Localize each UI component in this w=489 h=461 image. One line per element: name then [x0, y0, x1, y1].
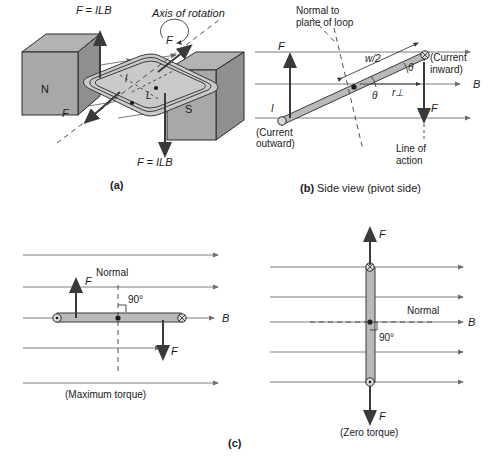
force-right-label-a: F	[166, 34, 174, 46]
panel-c-caption: (c)	[228, 437, 242, 449]
field-label-c-left: B	[222, 312, 229, 324]
panel-c-left: B F F Normal 90° (Maximum torque	[23, 255, 229, 400]
panel-c-right: B F F Normal 90° (Zero torque)	[270, 228, 475, 438]
panel-a-caption: (a)	[110, 179, 124, 191]
current-outward-line2: outward)	[256, 138, 295, 149]
panel-b: B w/2 r⊥	[255, 5, 480, 194]
force-up-label-b: F	[278, 40, 286, 52]
line-of-action-line1: Line of	[396, 143, 426, 154]
rotation-arrow-icon	[161, 19, 189, 43]
right-angle-marker-c-left	[118, 305, 126, 312]
theta-label-upper: θ	[408, 62, 414, 73]
panel-b-caption-text: Side view (pivot side)	[317, 182, 421, 194]
panel-b-caption-tag: (b)	[300, 182, 314, 194]
field-label-c-right: B	[468, 316, 475, 328]
loop-bar-c-right	[366, 263, 375, 386]
current-label-b: I	[271, 103, 274, 114]
state-label-c-left: (Maximum torque)	[65, 389, 146, 400]
normal-label-c-right: Normal	[407, 305, 439, 316]
field-label-b: B	[473, 78, 480, 90]
panel-a: N S l L	[22, 4, 244, 191]
current-outward-marker	[278, 117, 286, 125]
magnet-north: N	[22, 34, 100, 115]
force-down-label-c-right: F	[379, 410, 387, 422]
force-up-label-c-left: F	[85, 275, 93, 287]
force-down-label-c-left: F	[171, 345, 179, 357]
state-label-c-right: (Zero torque)	[340, 427, 398, 438]
theta-label-lower: θ	[372, 90, 378, 101]
force-up-label-c-right: F	[379, 228, 387, 240]
normal-to-plane-line1: Normal to	[296, 5, 340, 16]
normal-to-plane-line2: plane of loop	[296, 17, 354, 28]
physics-figure-torque-current-loop: N S l L	[0, 0, 489, 461]
half-width-label: w/2	[365, 53, 381, 64]
r-perp-label: r⊥	[392, 87, 404, 98]
current-inward-line2: inward)	[430, 64, 463, 75]
loop-bar-c-left	[53, 313, 186, 322]
force-bottom-label-a: F = ILB	[137, 156, 173, 168]
loop-side-label-L: L	[146, 90, 152, 101]
force-top-label-a: F = ILB	[76, 4, 112, 16]
magnet-north-label: N	[41, 83, 49, 95]
pivot-center-dot	[351, 84, 356, 89]
normal-label-c-left: Normal	[96, 267, 128, 278]
line-of-action-line2: action	[396, 155, 423, 166]
axis-of-rotation-label: Axis of rotation	[151, 7, 225, 19]
angle-label-c-left: 90°	[128, 294, 143, 305]
current-inward-line1: (Current	[430, 52, 467, 63]
force-down-label-b: F	[431, 102, 439, 114]
magnet-south-label: S	[185, 103, 192, 115]
angle-label-c-right: 90°	[379, 332, 394, 343]
loop-bar-b	[278, 51, 429, 125]
current-outward-line1: (Current	[256, 127, 293, 138]
